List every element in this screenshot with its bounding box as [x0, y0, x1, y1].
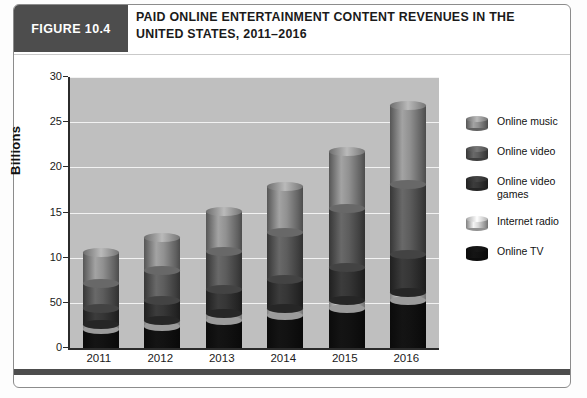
bar-segment: [267, 186, 303, 232]
legend-label: Online TV: [497, 245, 583, 258]
bar-segment-base-ellipse: [144, 296, 180, 305]
chart-area: Billions 0501015202530 20112012201320142…: [14, 55, 570, 355]
legend-item: Online video: [466, 145, 586, 161]
bars-group: [70, 77, 439, 348]
cylinder-swatch: [466, 216, 488, 229]
bar-segment-base-ellipse: [390, 296, 426, 305]
bar-segment: [329, 152, 365, 209]
cylinder-swatch: [466, 246, 488, 259]
bar-2012: [144, 238, 180, 348]
bar-top-ellipse: [267, 182, 303, 191]
bar-2014: [267, 186, 303, 348]
bar-segment-base-ellipse: [329, 296, 365, 305]
x-axis-line: [68, 348, 439, 350]
legend-swatch-top: [466, 176, 488, 182]
bar-segment: [390, 185, 426, 255]
cylinder-swatch: [466, 146, 488, 159]
bar-2013: [206, 212, 242, 348]
y-axis-tick-mark: [63, 76, 68, 77]
figure-header: FIGURE 10.4 PAID ONLINE ENTERTAINMENT CO…: [14, 5, 570, 54]
bar-segment-body: [329, 308, 365, 348]
bar-top-ellipse: [83, 248, 119, 257]
bar-segment-body: [206, 212, 242, 252]
y-axis-tick-label: 20: [28, 160, 62, 172]
y-axis-tick-label: 25: [28, 115, 62, 127]
bar-segment: [206, 251, 242, 289]
bar-segment-body: [390, 105, 426, 184]
legend-label: Online video: [497, 145, 583, 158]
bar-segment-base-ellipse: [267, 304, 303, 313]
bar-segment: [329, 268, 365, 301]
bar-segment-base-ellipse: [267, 228, 303, 237]
legend-item: Online music: [466, 115, 586, 131]
bar-segment-base-ellipse: [144, 316, 180, 325]
bar-segment: [83, 252, 119, 284]
bar-segment-body: [390, 185, 426, 255]
bar-segment-body: [390, 255, 426, 292]
legend-label: Online music: [497, 115, 583, 128]
figure-number-badge: FIGURE 10.4: [14, 5, 128, 52]
x-axis-tick-label: 2012: [130, 352, 190, 364]
x-axis-tick-label: 2011: [69, 352, 129, 364]
bar-2011: [83, 252, 119, 348]
bar-segment-base-ellipse: [206, 247, 242, 256]
bar-segment-base-ellipse: [144, 266, 180, 275]
bar-segment-base-ellipse: [83, 320, 119, 329]
bar-segment-base-ellipse: [83, 304, 119, 313]
bar-segment: [206, 212, 242, 252]
cylinder-swatch: [466, 116, 488, 129]
bar-segment: [267, 315, 303, 348]
bar-segment-base-ellipse: [390, 180, 426, 189]
legend-label: Online video games: [497, 175, 583, 200]
bar-segment-base-ellipse: [329, 263, 365, 272]
legend-item: Online video games: [466, 175, 586, 201]
chart-legend: Online musicOnline videoOnline video gam…: [466, 115, 586, 275]
bar-segment-body: [206, 251, 242, 289]
legend-swatch-top: [466, 116, 488, 122]
y-axis-tick-mark: [63, 347, 68, 348]
y-axis-tick-mark: [63, 302, 68, 303]
x-axis-tick-label: 2016: [376, 352, 436, 364]
y-axis-tick-label: 10: [28, 251, 62, 263]
legend-swatch-top: [466, 246, 488, 252]
y-axis-tick-label: 50: [28, 296, 62, 308]
bar-segment-body: [267, 186, 303, 232]
legend-swatch-top: [466, 216, 488, 222]
bar-segment-base-ellipse: [390, 288, 426, 297]
cylinder-swatch: [466, 176, 488, 189]
legend-label: Internet radio: [497, 215, 583, 228]
bar-2015: [329, 152, 365, 348]
y-axis-title: Billions: [8, 126, 23, 175]
bar-segment-base-ellipse: [329, 304, 365, 313]
x-axis-tick-label: 2015: [315, 352, 375, 364]
bar-segment-body: [329, 209, 365, 268]
y-axis-tick-mark: [63, 257, 68, 258]
y-axis-tick-mark: [63, 212, 68, 213]
legend-swatch-top: [466, 146, 488, 152]
bar-top-ellipse: [390, 101, 426, 110]
x-axis-tick-label: 2013: [192, 352, 252, 364]
plot-area: [68, 77, 439, 348]
y-axis-tick-label: 15: [28, 206, 62, 218]
x-axis-tick-label: 2014: [253, 352, 313, 364]
bar-segment: [267, 232, 303, 279]
figure-container: FIGURE 10.4 PAID ONLINE ENTERTAINMENT CO…: [0, 0, 587, 398]
bar-segment-body: [329, 152, 365, 209]
y-axis-tick-label: 0: [28, 341, 62, 353]
bar-segment-body: [390, 300, 426, 348]
bar-top-ellipse: [206, 207, 242, 216]
y-axis-tick-mark: [63, 166, 68, 167]
bar-segment: [144, 238, 180, 271]
legend-item: Online TV: [466, 245, 586, 261]
bar-segment-body: [267, 232, 303, 279]
bar-2016: [390, 105, 426, 348]
y-axis-tick-mark: [63, 121, 68, 122]
bar-segment: [390, 300, 426, 348]
bar-segment-base-ellipse: [206, 285, 242, 294]
legend-item: Internet radio: [466, 215, 586, 231]
bar-segment: [329, 209, 365, 268]
figure-number-label: FIGURE 10.4: [31, 22, 110, 36]
bar-segment: [390, 105, 426, 184]
bar-segment-base-ellipse: [267, 275, 303, 284]
figure-title: PAID ONLINE ENTERTAINMENT CONTENT REVENU…: [136, 9, 560, 43]
